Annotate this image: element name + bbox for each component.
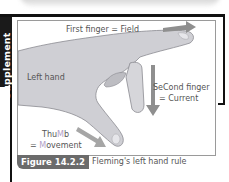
figure-title: Fleming's left hand rule — [92, 155, 187, 169]
second-finger-label: SeCond finger — [153, 83, 210, 92]
movement-text: ovement — [46, 141, 81, 150]
left-hand-label: Left hand — [27, 73, 65, 82]
thumb-text-rest: b — [64, 130, 69, 139]
frame-border-right — [223, 14, 225, 105]
thumb-label: ThuMb — [42, 130, 69, 139]
thumb-highlight: M — [57, 130, 64, 139]
figure-caption: Figure 14.2.2 Fleming's left hand rule — [17, 155, 215, 169]
thumb-text: Thu — [42, 130, 57, 139]
page-edge-shadow — [20, 0, 220, 6]
movement-label: = Movement — [30, 141, 82, 150]
movement-equals: = — [30, 141, 39, 150]
supplement-tab: Supplement — [0, 17, 12, 87]
thumbnail — [112, 134, 120, 144]
second-finger-text: Se — [153, 83, 163, 92]
supplement-tab-label: Supplement — [1, 32, 12, 99]
second-finger-text-rest: ond finger — [169, 83, 210, 92]
figure-number: Figure 14.2.2 — [17, 155, 89, 169]
first-finger-label: First finger = Field — [66, 25, 139, 34]
current-label: = Current — [159, 94, 198, 103]
frame-border-top — [0, 14, 223, 17]
frame-border-corner — [218, 103, 225, 105]
figure-panel: First finger = Field Left hand SeCond fi… — [17, 20, 216, 156]
second-finger-shape — [126, 62, 144, 112]
